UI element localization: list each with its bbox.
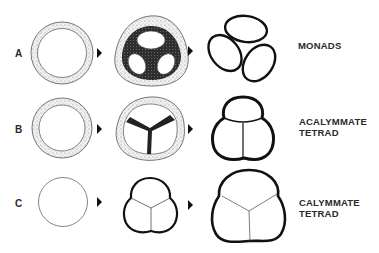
row-c-mother-cell	[39, 178, 88, 227]
diagram: A B C MONADS ACALYMMATE TETRAD CALYMMATE…	[0, 0, 379, 253]
acalymmate-tetrad	[212, 97, 273, 160]
row-b-intermediate	[116, 97, 184, 160]
result-label-acalymmate-tetrad: ACALYMMATE TETRAD	[299, 116, 367, 138]
row-label-c: C	[15, 198, 22, 209]
arrow-icon	[188, 46, 193, 56]
row-a-intermediate	[115, 16, 188, 86]
arrow-icon	[97, 197, 102, 207]
row-a-mother-cell	[31, 22, 93, 84]
result-label-calymmate-tetrad: CALYMMATE TETRAD	[299, 197, 360, 219]
row-c-intermediate	[124, 178, 177, 232]
calymmate-tetrad	[212, 170, 285, 242]
arrow-icon	[97, 48, 102, 58]
arrow-icon	[188, 124, 193, 134]
result-label-monads: MONADS	[298, 40, 341, 51]
monads	[202, 13, 282, 87]
row-label-a: A	[15, 48, 22, 59]
row-b-mother-cell	[32, 98, 92, 158]
arrow-icon	[97, 124, 102, 134]
arrow-icon	[188, 200, 193, 210]
row-label-b: B	[15, 124, 22, 135]
